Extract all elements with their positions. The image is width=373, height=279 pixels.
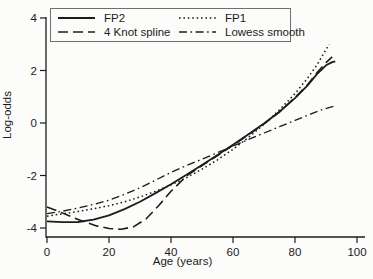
y-tick-label: -4 (27, 222, 38, 234)
legend-item-4knot-spline: 4 Knot spline (57, 25, 178, 39)
y-tick-label: 4 (31, 12, 38, 24)
legend-label-fp1: FP1 (225, 12, 246, 24)
x-axis-title: Age (years) (0, 255, 365, 267)
legend: FP2 FP1 4 Knot spline Lowess smooth (50, 8, 291, 42)
y-tick-label: -2 (27, 170, 37, 182)
series-line-fp2 (47, 61, 335, 222)
dotted-line-sample (178, 13, 218, 23)
y-axis-title: Log-odds (1, 65, 13, 165)
solid-line-sample (57, 13, 97, 23)
dashed-line-sample (57, 27, 97, 37)
legend-label-fp2: FP2 (104, 12, 125, 24)
chart: 420-2-4020406080100 FP2 FP1 4 Knot splin… (0, 0, 373, 279)
legend-label-lowess: Lowess smooth (225, 26, 305, 38)
series-line-lowess-smooth (47, 106, 335, 214)
series-line-4-knot-spline (47, 57, 332, 230)
legend-item-lowess: Lowess smooth (178, 25, 305, 39)
dash-dot-line-sample (178, 27, 218, 37)
axes (46, 17, 365, 237)
y-tick-label: 0 (31, 117, 37, 129)
legend-label-4knot-spline: 4 Knot spline (104, 26, 171, 38)
series-line-fp1 (47, 44, 329, 216)
legend-item-fp1: FP1 (178, 11, 305, 25)
y-tick-label: 2 (31, 65, 37, 77)
legend-item-fp2: FP2 (57, 11, 178, 25)
